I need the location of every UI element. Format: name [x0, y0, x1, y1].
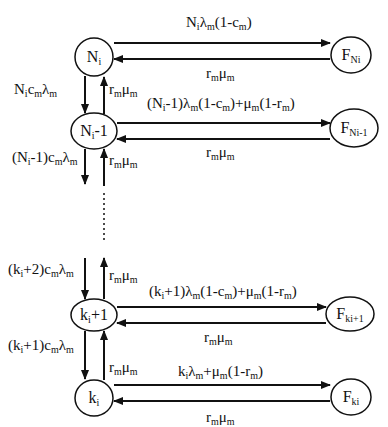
- state-label-fki-1: Fki+1: [336, 306, 363, 322]
- rate-label-ni-1-to-ni: rmμm: [109, 82, 138, 97]
- rate-label-ki-to-fki: kiλm+μm(1-rm): [178, 364, 263, 379]
- rate-label-ki-1-to-fki-1: (ki+1)λm(1-cm)+μm(1-rm): [149, 284, 297, 299]
- rate-label-fki-to-ki: rmμm: [206, 410, 235, 425]
- rate-label-ki-1-in-down: (ki+2)cmλm: [8, 262, 74, 277]
- state-label-ni: Ni: [87, 49, 101, 65]
- rate-label-fki-1-to-ki-1: rmμm: [204, 330, 233, 345]
- markov-chain-diagram: NiNi-1ki+1kiFNiFNi-1Fki+1FkiNiλm(1-cm)rm…: [0, 0, 388, 427]
- rate-label-ni-1-down: (Ni-1)cmλm: [12, 150, 78, 165]
- rate-label-fni-1-to-ni-1: rmμm: [206, 145, 235, 160]
- rate-label-ni-1-up: rmμm: [109, 153, 138, 168]
- state-label-fki: Fki: [343, 389, 360, 405]
- state-label-ni-1: Ni-1: [80, 123, 108, 139]
- rate-label-ni-to-ni-1: Nicmλm: [14, 82, 57, 97]
- rate-label-fni-to-ni: rmμm: [206, 66, 235, 81]
- state-label-fni-1: FNi-1: [340, 120, 367, 136]
- rate-label-ki-1-out-up: rmμm: [109, 268, 138, 283]
- rate-label-ki-to-ki-1: rmμm: [109, 360, 138, 375]
- rate-label-ki-1-to-ki: (ki+1)cmλm: [8, 338, 74, 353]
- state-label-ki-1: ki+1: [80, 307, 108, 323]
- state-label-ki: ki: [89, 390, 100, 406]
- rate-label-ni-1-to-fni-1: (Ni-1)λm(1-cm)+μm(1-rm): [147, 96, 295, 111]
- state-label-fni: FNi: [342, 47, 361, 63]
- rate-label-ni-to-fni: Niλm(1-cm): [186, 15, 252, 30]
